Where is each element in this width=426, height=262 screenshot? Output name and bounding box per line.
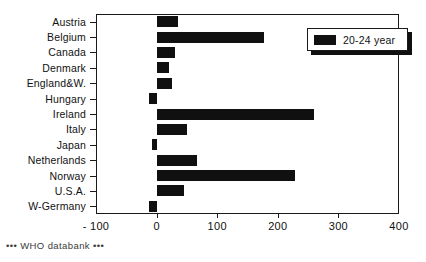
category-label-canada: Canada	[48, 45, 86, 59]
bar-england-w	[157, 78, 172, 89]
category-label-hungary: Hungary	[45, 92, 86, 106]
y-axis-tick	[90, 145, 96, 146]
x-axis-label: 0	[127, 220, 187, 232]
source-note: ••• WHO databank •••	[6, 240, 104, 251]
category-label-w-germany: W-Germany	[28, 199, 86, 213]
bar-netherlands	[157, 155, 198, 166]
y-axis-tick	[90, 176, 96, 177]
category-label-england-w: England&W.	[27, 76, 86, 90]
y-axis-tick	[90, 191, 96, 192]
category-label-denmark: Denmark	[42, 61, 86, 75]
y-axis-tick	[90, 99, 96, 100]
x-axis-tick	[338, 214, 339, 218]
category-label-norway: Norway	[50, 169, 87, 183]
category-label-netherlands: Netherlands	[28, 153, 86, 167]
y-axis-tick	[90, 206, 96, 207]
category-label-u-s-a: U.S.A.	[55, 184, 86, 198]
bar-denmark	[157, 62, 170, 73]
bar-u-s-a	[157, 185, 184, 196]
category-label-italy: Italy	[66, 122, 86, 136]
x-axis-label: 200	[248, 220, 308, 232]
category-label-belgium: Belgium	[47, 30, 86, 44]
x-axis-label: 300	[308, 220, 368, 232]
legend-swatch-icon	[314, 35, 336, 45]
y-axis-tick	[90, 129, 96, 130]
y-axis-tick	[90, 160, 96, 161]
bar-norway	[157, 170, 296, 181]
legend-label: 20-24 year	[343, 34, 395, 46]
y-axis-tick	[90, 52, 96, 53]
category-label-japan: Japan	[57, 138, 86, 152]
y-axis-tick	[90, 68, 96, 69]
x-axis-label: - 100	[66, 220, 126, 232]
x-axis-tick	[217, 214, 218, 218]
bar-canada	[157, 47, 175, 58]
bar-belgium	[157, 32, 265, 43]
category-axis-labels: AustriaBelgiumCanadaDenmarkEngland&W.Hun…	[0, 14, 90, 214]
bar-italy	[157, 124, 187, 135]
chart-container: AustriaBelgiumCanadaDenmarkEngland&W.Hun…	[0, 0, 426, 262]
y-axis-tick	[90, 114, 96, 115]
x-axis-tick	[278, 214, 279, 218]
category-label-ireland: Ireland	[53, 107, 86, 121]
x-axis-tick	[157, 214, 158, 218]
bar-w-germany	[149, 201, 156, 212]
bar-ireland	[157, 109, 314, 120]
x-axis-label: 100	[187, 220, 247, 232]
chart-legend: 20-24 year	[307, 28, 408, 51]
bar-austria	[157, 16, 178, 27]
y-axis-tick	[90, 22, 96, 23]
y-axis-tick	[90, 37, 96, 38]
y-axis-tick	[90, 83, 96, 84]
category-label-austria: Austria	[52, 15, 86, 29]
x-axis-label: 400	[369, 220, 426, 232]
bar-hungary	[149, 93, 156, 104]
bar-japan	[152, 139, 157, 150]
